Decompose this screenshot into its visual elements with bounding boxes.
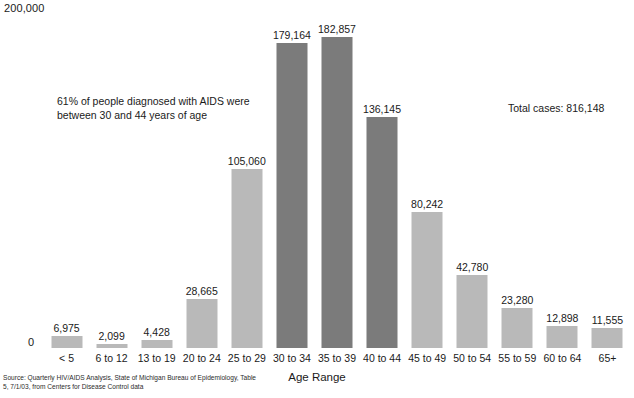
bar-value-label: 42,780 <box>456 261 488 273</box>
bar-value-label: 182,857 <box>318 23 356 35</box>
plot-area: 6,9752,0994,42828,665105,060179,164182,8… <box>44 8 630 348</box>
bar-value-label: 136,145 <box>363 103 401 115</box>
x-axis-label: 45 to 49 <box>408 352 446 364</box>
bar-group: 11,555 <box>585 8 630 348</box>
bar-group: 42,780 <box>450 8 495 348</box>
bar-value-label: 6,975 <box>53 322 79 334</box>
aids-cases-by-age-bar-chart: 200,000 0 61% of people diagnosed with A… <box>0 0 634 398</box>
bar[interactable] <box>502 308 533 348</box>
bar-group: 28,665 <box>179 8 224 348</box>
x-axis-label: 65+ <box>599 352 617 364</box>
x-axis-label: 30 to 34 <box>273 352 311 364</box>
x-axis-label: 25 to 29 <box>228 352 266 364</box>
bar-group: 2,099 <box>89 8 134 348</box>
bar[interactable] <box>276 43 307 348</box>
bar[interactable] <box>141 340 172 348</box>
bar[interactable] <box>51 336 82 348</box>
bar[interactable] <box>186 299 217 348</box>
bar-group: 12,898 <box>540 8 585 348</box>
x-axis-tick-labels: < 56 to 1213 to 1920 to 2425 to 2930 to … <box>44 352 630 368</box>
x-axis-label: 40 to 44 <box>363 352 401 364</box>
bar-group: 182,857 <box>314 8 359 348</box>
bar-group: 4,428 <box>134 8 179 348</box>
bar[interactable] <box>547 326 578 348</box>
bar[interactable] <box>367 117 398 348</box>
bar-group: 136,145 <box>360 8 405 348</box>
x-axis-label: 6 to 12 <box>96 352 128 364</box>
bar-group: 23,280 <box>495 8 540 348</box>
x-axis-label: 60 to 64 <box>543 352 581 364</box>
bar-value-label: 12,898 <box>546 312 578 324</box>
x-axis-label: 35 to 39 <box>318 352 356 364</box>
bar[interactable] <box>457 275 488 348</box>
bar[interactable] <box>96 344 127 348</box>
bar[interactable] <box>412 212 443 348</box>
bar-group: 179,164 <box>269 8 314 348</box>
bar[interactable] <box>592 328 623 348</box>
y-axis-max-label: 200,000 <box>4 2 44 14</box>
bar-value-label: 4,428 <box>144 326 170 338</box>
x-axis-label: 20 to 24 <box>183 352 221 364</box>
bar-value-label: 23,280 <box>501 294 533 306</box>
y-axis-zero-label: 0 <box>28 336 34 348</box>
x-axis-label: 13 to 19 <box>138 352 176 364</box>
bar-value-label: 28,665 <box>186 285 218 297</box>
x-axis-label: 50 to 54 <box>453 352 491 364</box>
bar-group: 80,242 <box>405 8 450 348</box>
bar-value-label: 105,060 <box>228 155 266 167</box>
x-axis-label: 55 to 59 <box>498 352 536 364</box>
bar-group: 105,060 <box>224 8 269 348</box>
bar-value-label: 2,099 <box>98 330 124 342</box>
bar[interactable] <box>231 169 262 348</box>
x-axis-label: < 5 <box>59 352 74 364</box>
source-note: Source: Quarterly HIV/AIDS Analysis, Sta… <box>3 373 263 392</box>
bar-group: 6,975 <box>44 8 89 348</box>
bar-value-label: 11,555 <box>592 314 623 326</box>
bar[interactable] <box>321 37 352 348</box>
bar-value-label: 80,242 <box>411 198 443 210</box>
bar-value-label: 179,164 <box>273 29 311 41</box>
